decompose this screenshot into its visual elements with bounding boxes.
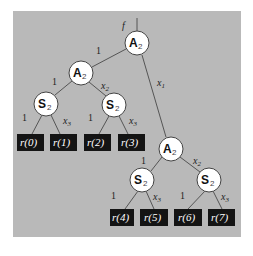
svg-text:r(0): r(0) <box>20 136 37 149</box>
edge-label-aright-left: 1 <box>141 155 146 166</box>
edge-label-aleft-left: 1 <box>52 76 57 87</box>
svg-text:r(5): r(5) <box>144 211 161 224</box>
svg-text:A: A <box>73 66 82 80</box>
node-left-a2: A 2 <box>69 61 93 85</box>
svg-text:r(1): r(1) <box>53 136 70 149</box>
svg-text:2: 2 <box>143 179 148 188</box>
edge-label-srr-left: 1 <box>180 190 185 201</box>
svg-text:A: A <box>129 36 138 50</box>
svg-text:r(7): r(7) <box>211 211 228 224</box>
svg-text:2: 2 <box>82 72 87 81</box>
svg-text:S: S <box>201 173 209 187</box>
edge-label-sll-left: 1 <box>22 112 27 123</box>
node-s2-rl: S 2 <box>130 168 154 192</box>
leaf-r0: r(0) <box>17 134 44 151</box>
svg-text:A: A <box>163 142 172 156</box>
leaf-r2: r(2) <box>84 134 111 151</box>
tree-diagram: f 1 x1 1 x2 1 x3 1 x3 1 x2 1 x3 1 x3 <box>0 0 253 256</box>
edge-label-slr-left: 1 <box>88 112 93 123</box>
svg-text:S: S <box>134 173 142 187</box>
leaf-r3: r(3) <box>118 134 145 151</box>
svg-text:2: 2 <box>172 148 177 157</box>
leaf-r5: r(5) <box>140 209 168 226</box>
leaf-r7: r(7) <box>208 209 235 226</box>
edge-label-srl-left: 1 <box>111 190 116 201</box>
svg-text:r(4): r(4) <box>112 211 129 224</box>
svg-text:r(3): r(3) <box>121 136 138 149</box>
svg-text:2: 2 <box>47 103 52 112</box>
svg-text:S: S <box>106 98 114 112</box>
svg-text:S: S <box>38 97 46 111</box>
svg-text:2: 2 <box>210 179 215 188</box>
leaf-r1: r(1) <box>50 134 77 151</box>
node-right-a2: A 2 <box>159 137 183 161</box>
edge-label-root-left: 1 <box>96 45 101 56</box>
svg-text:r(2): r(2) <box>87 136 104 149</box>
svg-text:2: 2 <box>115 104 120 113</box>
node-s2-rr: S 2 <box>197 168 221 192</box>
leaf-r4: r(4) <box>110 209 134 226</box>
leaf-r6: r(6) <box>174 209 202 226</box>
node-s2-lr: S 2 <box>102 93 126 117</box>
node-s2-ll: S 2 <box>34 92 58 116</box>
svg-text:2: 2 <box>138 42 143 51</box>
svg-text:r(6): r(6) <box>178 211 195 224</box>
node-root-a2: A 2 <box>125 31 149 55</box>
